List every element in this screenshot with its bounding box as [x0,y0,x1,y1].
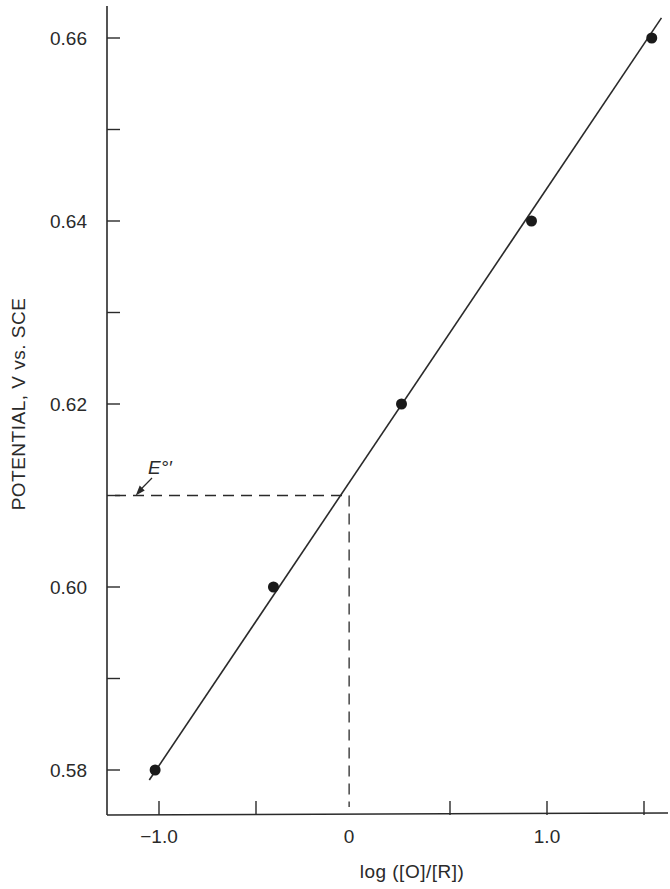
data-point [646,33,657,44]
data-point [396,399,407,410]
x-axis-line [107,813,668,815]
data-points [150,33,658,776]
y-tick-label: 0.58 [50,760,87,781]
y-axis-label: POTENTIAL, V vs. SCE [8,298,29,511]
data-point [268,582,279,593]
x-tick-label: 1.0 [534,826,560,847]
y-tick-label: 0.62 [50,394,87,415]
data-point [526,216,537,227]
data-point [150,765,161,776]
y-tick-label: 0.60 [50,577,87,598]
reference-lines [115,478,349,807]
x-axis-label: log ([O]/[R]) [360,861,465,882]
y-tick-label: 0.64 [50,211,87,232]
x-tick-label: 0 [344,826,355,847]
fit-line-group [149,18,661,780]
axes: 0.580.600.620.640.66−1.001.0 [50,6,668,847]
y-tick-label: 0.66 [50,28,87,49]
e0-annotation-label: E°′ [148,457,173,478]
x-tick-label: −1.0 [140,826,178,847]
chart: 0.580.600.620.640.66−1.001.0 log ([O]/[R… [0,0,670,889]
fit-line [149,18,661,780]
